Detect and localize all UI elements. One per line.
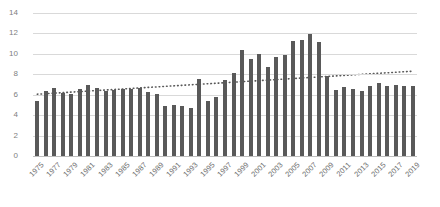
bar	[317, 42, 321, 156]
bar	[402, 86, 406, 156]
bar	[197, 79, 201, 156]
x-tick-label: 2013	[352, 161, 370, 179]
bar	[342, 87, 346, 156]
bar	[129, 89, 133, 156]
bar	[291, 41, 295, 156]
bar	[334, 90, 338, 156]
bar	[35, 101, 39, 156]
bar	[146, 92, 150, 156]
bar	[172, 105, 176, 156]
bar	[206, 101, 210, 156]
y-tick-label: 10	[9, 50, 18, 58]
bar	[163, 106, 167, 156]
x-tick-label: 1981	[79, 161, 97, 179]
bar	[232, 73, 236, 156]
gridline	[33, 74, 417, 75]
bar	[351, 89, 355, 156]
bar	[394, 85, 398, 157]
bar	[214, 97, 218, 156]
y-tick-label: 8	[13, 70, 18, 78]
bar	[274, 57, 278, 156]
y-tick-label: 14	[9, 9, 18, 17]
bar	[78, 89, 82, 156]
bar	[104, 91, 108, 156]
x-tick-label: 1979	[62, 161, 80, 179]
bar	[257, 54, 261, 156]
bar	[377, 83, 381, 156]
bar	[86, 85, 90, 157]
x-tick-label: 1975	[28, 161, 46, 179]
bar	[300, 40, 304, 156]
x-tick-label: 2003	[267, 161, 285, 179]
y-tick-label: 2	[13, 132, 18, 140]
bar	[411, 86, 415, 156]
x-tick-label: 1991	[165, 161, 183, 179]
bar	[138, 88, 142, 156]
x-tick-label: 2017	[387, 161, 405, 179]
bar	[180, 106, 184, 156]
x-tick-label: 2005	[284, 161, 302, 179]
bar	[223, 80, 227, 156]
bar	[95, 88, 99, 156]
bar	[325, 76, 329, 156]
x-tick-label: 1999	[233, 161, 251, 179]
bar	[249, 59, 253, 156]
x-tick-label: 1987	[131, 161, 149, 179]
bar	[266, 67, 270, 156]
axis-baseline	[33, 156, 417, 157]
y-tick-label: 4	[13, 111, 18, 119]
bar	[368, 86, 372, 156]
bar	[44, 91, 48, 156]
bar	[121, 89, 125, 156]
x-tick-label: 1989	[148, 161, 166, 179]
bar	[61, 93, 65, 156]
y-tick-label: 0	[13, 152, 18, 160]
x-tick-label: 1983	[96, 161, 114, 179]
bar	[155, 94, 159, 156]
bar	[112, 90, 116, 156]
x-tick-label: 2009	[318, 161, 336, 179]
x-tick-label: 2001	[250, 161, 268, 179]
gridline	[33, 54, 417, 55]
x-tick-label: 2015	[370, 161, 388, 179]
x-tick-label: 1997	[216, 161, 234, 179]
x-axis: 1975197719791981198319851987198919911993…	[33, 159, 417, 205]
x-tick-label: 2007	[301, 161, 319, 179]
x-tick-label: 1977	[45, 161, 63, 179]
x-tick-label: 1995	[199, 161, 217, 179]
y-tick-label: 12	[9, 29, 18, 37]
plot-area	[33, 13, 417, 156]
x-tick-label: 2019	[404, 161, 422, 179]
bar	[69, 94, 73, 156]
bar-chart: 02468101214 1975197719791981198319851987…	[0, 0, 440, 207]
x-tick-label: 1985	[114, 161, 132, 179]
bar	[240, 50, 244, 156]
bar	[308, 34, 312, 156]
bar	[189, 108, 193, 156]
gridline	[33, 13, 417, 14]
x-tick-label: 2011	[336, 161, 353, 178]
bar	[385, 86, 389, 156]
bar	[360, 91, 364, 156]
y-tick-label: 6	[13, 91, 18, 99]
x-tick-label: 1993	[182, 161, 200, 179]
bar	[283, 55, 287, 156]
gridline	[33, 33, 417, 34]
bar	[52, 88, 56, 156]
